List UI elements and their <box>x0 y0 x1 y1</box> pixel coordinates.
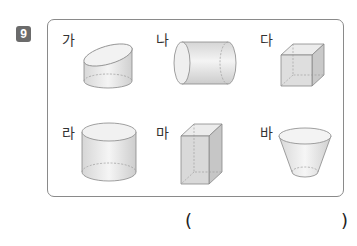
cube-icon <box>280 42 330 88</box>
truncated-cone-icon <box>277 126 333 182</box>
answer-close-paren: ) <box>341 210 348 231</box>
item-label-ma: 마 <box>156 125 169 141</box>
item-label-ra: 라 <box>62 125 75 141</box>
lying-cylinder-icon <box>172 40 238 88</box>
rectangular-prism-icon <box>180 122 224 186</box>
answer-open-paren: ( <box>185 210 192 231</box>
item-label-da: 다 <box>260 32 273 48</box>
cylinder-icon <box>80 122 140 184</box>
slanted-cylinder-icon <box>80 36 140 92</box>
item-label-na: 나 <box>156 32 169 48</box>
item-label-ga: 가 <box>62 32 75 48</box>
item-label-ba: 바 <box>260 125 273 141</box>
question-number-badge: 9 <box>16 26 31 42</box>
answer-blank[interactable] <box>200 212 340 232</box>
